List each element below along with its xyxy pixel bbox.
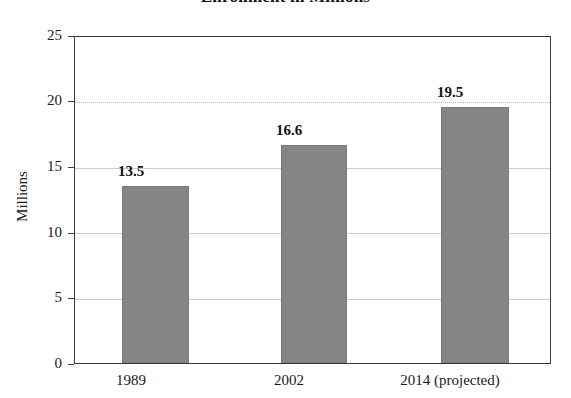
y-tick-label-10: 10 <box>4 224 62 241</box>
bar-value-2014-projected: 19.5 <box>420 84 480 101</box>
chart-figure: Enrollment in Millions Millions 25 20 15… <box>0 0 571 398</box>
x-tick-label-2002: 2002 <box>239 372 339 389</box>
bar-1989 <box>122 186 189 363</box>
bar-value-2002: 16.6 <box>259 122 319 139</box>
bar-2002 <box>281 145 347 363</box>
y-tick-label-25: 25 <box>4 27 62 44</box>
gridline-20 <box>75 102 550 103</box>
x-tick-label-1989: 1989 <box>81 372 181 389</box>
bar-2014-projected <box>441 107 509 363</box>
chart-title: Enrollment in Millions <box>0 0 571 7</box>
y-tick-label-0: 0 <box>4 355 62 372</box>
y-tick-label-5: 5 <box>4 289 62 306</box>
y-tick-label-20: 20 <box>4 92 62 109</box>
x-tick-label-2014-projected: 2014 (projected) <box>330 372 570 389</box>
y-tick-label-15: 15 <box>4 158 62 175</box>
bar-value-1989: 13.5 <box>101 163 161 180</box>
y-tick-mark-0 <box>68 364 74 365</box>
